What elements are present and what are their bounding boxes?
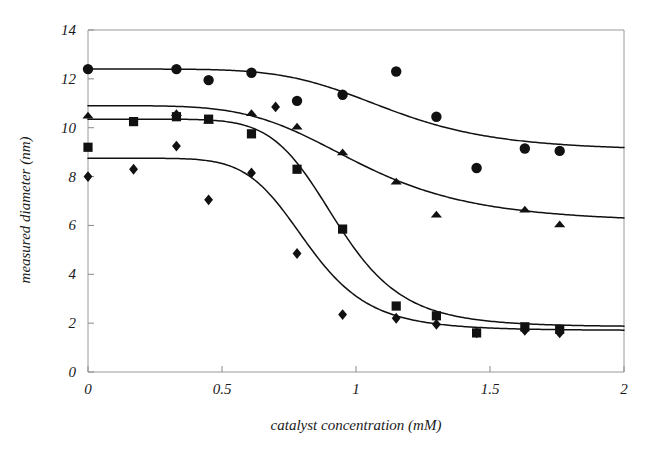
marker-circle [203, 75, 213, 85]
marker-square [172, 112, 181, 121]
marker-circle [520, 143, 530, 153]
y-tick-label: 10 [61, 120, 77, 136]
y-tick-label: 0 [69, 364, 77, 380]
y-axis-title: measured diameter (nm) [17, 137, 34, 284]
x-tick-label: 1.5 [481, 381, 500, 397]
chart-figure: 00.511.52 02468101214 catalyst concentra… [0, 0, 663, 454]
marker-circle [554, 146, 564, 156]
fit-curve-square [88, 119, 624, 326]
y-tick-label: 8 [69, 169, 77, 185]
fit-curves [88, 69, 624, 330]
marker-circle [171, 64, 181, 74]
marker-triangle [246, 109, 257, 116]
y-tick-label: 2 [69, 315, 77, 331]
marker-diamond [432, 319, 441, 330]
marker-square [247, 129, 256, 138]
marker-diamond [293, 248, 302, 259]
marker-diamond [172, 141, 181, 152]
y-tick-label: 14 [61, 22, 77, 38]
y-tick-label: 6 [69, 217, 77, 233]
series-triangle-series [82, 109, 565, 227]
marker-circle [292, 96, 302, 106]
marker-circle [431, 112, 441, 122]
marker-diamond [247, 168, 256, 179]
marker-triangle [337, 148, 348, 155]
marker-square [129, 117, 138, 126]
marker-circle [83, 64, 93, 74]
marker-square [204, 115, 213, 124]
marker-triangle [291, 123, 302, 130]
y-axis-tick-labels: 02468101214 [61, 22, 77, 380]
x-axis-ticks [88, 366, 624, 372]
scatter-plot-svg: 00.511.52 02468101214 catalyst concentra… [0, 0, 663, 454]
fit-curve-circle [88, 69, 624, 147]
x-axis-tick-labels: 00.511.52 [84, 381, 628, 397]
marker-square [292, 165, 301, 174]
fit-curve-triangle [88, 106, 624, 218]
marker-diamond [84, 171, 93, 182]
y-axis-ticks [88, 30, 94, 372]
marker-triangle [431, 211, 442, 218]
fit-curve-diamond [88, 158, 624, 330]
x-tick-label: 0.5 [213, 381, 232, 397]
marker-circle [246, 68, 256, 78]
marker-triangle [554, 220, 565, 227]
marker-diamond [204, 194, 213, 205]
x-tick-label: 1 [352, 381, 360, 397]
marker-square [83, 143, 92, 152]
x-tick-label: 2 [620, 381, 628, 397]
plot-frame [88, 30, 624, 372]
marker-square [338, 224, 347, 233]
x-tick-label: 0 [84, 381, 92, 397]
marker-triangle [82, 112, 93, 119]
y-tick-label: 4 [69, 266, 77, 282]
marker-square [392, 301, 401, 310]
x-axis-title: catalyst concentration (mM) [271, 417, 442, 434]
marker-triangle [519, 206, 530, 213]
y-tick-label: 12 [61, 71, 77, 87]
marker-diamond [129, 164, 138, 175]
marker-circle [471, 163, 481, 173]
marker-circle [337, 90, 347, 100]
marker-diamond [271, 102, 280, 113]
marker-diamond [338, 309, 347, 320]
marker-circle [391, 66, 401, 76]
